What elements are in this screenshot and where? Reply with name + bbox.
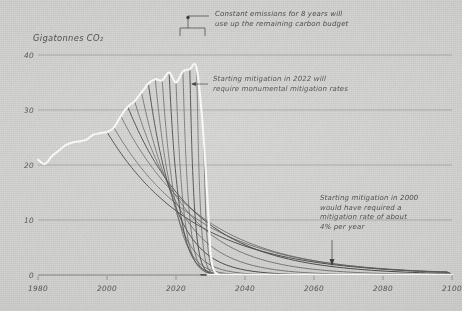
x-tick-label-2000: 2000 xyxy=(97,284,117,293)
annotation-dot-1 xyxy=(186,16,189,19)
x-tick-label-2020: 2020 xyxy=(166,284,186,293)
annotation-constant-emissions: Constant emissions for 8 years will use … xyxy=(180,10,349,36)
x-tick-label-2080: 2080 xyxy=(373,284,393,293)
mitigation-curve-2024 xyxy=(190,69,452,274)
annotation-text-mitigation-2022: Starting mitigation in 2022 will require… xyxy=(213,75,348,93)
mitigation-curve-2020 xyxy=(176,83,452,275)
annotation-mitigation-2000: Starting mitigation in 2000 would have r… xyxy=(320,194,421,266)
annotation-bracket xyxy=(180,28,205,36)
annotation-text-mitigation-2000: Starting mitigation in 2000 would have r… xyxy=(320,194,421,231)
chart-canvas: 010203040 1980200020202040206020802100 G… xyxy=(0,0,462,311)
mitigation-fan-curves xyxy=(107,69,452,275)
y-tick-label-10: 10 xyxy=(24,216,34,225)
x-tick-label-2060: 2060 xyxy=(304,284,324,293)
annotation-mitigation-2022: Starting mitigation in 2022 will require… xyxy=(191,75,348,93)
annotation-leader-line-1 xyxy=(188,16,209,28)
x-tickmarks-group xyxy=(38,276,452,280)
mitigation-curve-2022 xyxy=(183,72,452,275)
mitigation-curve-2018 xyxy=(169,73,452,275)
y-tick-label-20: 20 xyxy=(24,161,34,170)
mitigation-curve-2008 xyxy=(135,101,452,275)
x-tick-label-2100: 2100 xyxy=(442,284,462,293)
x-tick-label-2040: 2040 xyxy=(235,284,255,293)
mitigation-curve-2014 xyxy=(155,79,452,275)
annotation-text-constant-emissions: Constant emissions for 8 years will use … xyxy=(215,10,349,28)
y-axis-title: Gigatonnes CO₂ xyxy=(33,33,104,43)
x-tick-label-1980: 1980 xyxy=(28,284,48,293)
emissions-pathways-chart: 010203040 1980200020202040206020802100 G… xyxy=(0,0,462,311)
mitigation-curve-2026 xyxy=(197,69,452,275)
annotation-arrowhead-2 xyxy=(191,82,196,86)
y-tick-label-30: 30 xyxy=(24,106,34,115)
y-axis-tick-labels: 010203040 xyxy=(24,51,34,280)
y-tick-label-40: 40 xyxy=(24,51,34,60)
y-tick-label-0: 0 xyxy=(29,271,34,280)
mitigation-curve-2006 xyxy=(128,107,452,275)
x-axis-tick-labels: 1980200020202040206020802100 xyxy=(28,284,462,293)
